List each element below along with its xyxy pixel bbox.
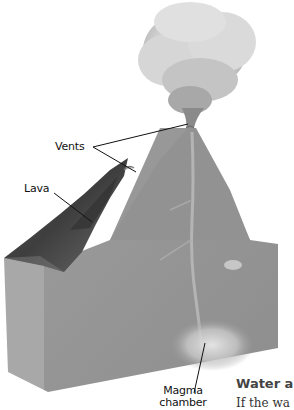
body-text-fragment: If the wa	[236, 396, 290, 410]
vents-label: Vents	[55, 141, 84, 153]
magma-chamber-glow	[170, 319, 254, 371]
volcano-diagram: Vents Lava Magma chamber Water a If the …	[0, 0, 294, 410]
block-left-face	[4, 258, 44, 390]
volcano-cone	[110, 128, 250, 240]
magma-chamber-label: Magma chamber	[158, 385, 208, 409]
magma-label-line2: chamber	[158, 397, 208, 409]
section-heading-fragment: Water a	[236, 376, 293, 391]
lava-label: Lava	[24, 183, 49, 195]
eruption-smoke-cloud	[138, 2, 256, 128]
volcano-illustration	[0, 0, 294, 410]
